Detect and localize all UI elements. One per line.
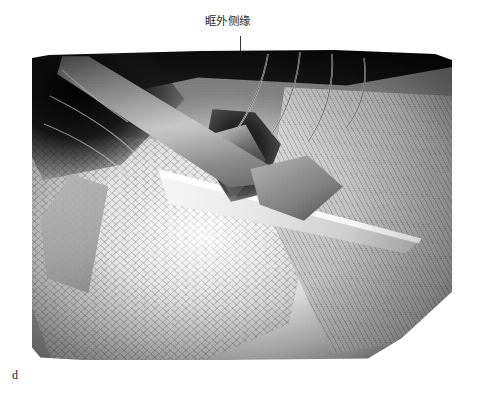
photo-grain (32, 50, 452, 360)
surgical-photograph (32, 50, 452, 360)
figure-root: 眶外侧缘 (0, 0, 478, 406)
annotation-label-lateral-orbital-rim: 眶外侧缘 (205, 14, 251, 28)
panel-letter: d (12, 368, 18, 383)
